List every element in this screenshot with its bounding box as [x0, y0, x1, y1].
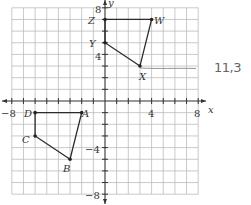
x-tick-label-4: 4	[148, 108, 154, 119]
vertex-y	[103, 41, 107, 45]
vertex-d	[33, 111, 37, 115]
handwritten-line	[140, 68, 196, 69]
vertex-label-c: C	[22, 134, 30, 145]
vertex-label-a: A	[81, 108, 89, 119]
vertex-label-b: B	[62, 163, 70, 174]
handwritten-note: 11,3	[214, 60, 241, 75]
vertex-x	[138, 64, 142, 68]
x-axis-right-arrow-icon	[201, 99, 206, 103]
y-axis-up-arrow-icon	[103, 0, 107, 5]
vertex-label-z: Z	[87, 15, 96, 26]
x-tick-label-neg8: −8	[1, 108, 16, 119]
vertex-c	[33, 134, 37, 138]
y-tick-label-neg8: −8	[85, 190, 100, 201]
y-axis-down-arrow-icon	[103, 199, 107, 204]
vertex-label-w: W	[154, 15, 165, 26]
x-tick-label-8: 8	[194, 108, 200, 119]
y-tick-label-4: 4	[95, 51, 101, 62]
x-axis-label: x	[208, 104, 214, 115]
y-tick-label-neg4: −4	[85, 144, 100, 155]
vertex-w	[150, 18, 154, 22]
vertex-label-y: Y	[89, 38, 97, 49]
y-tick-label-8: 8	[95, 4, 101, 15]
coordinate-plane: x y −8 4 8 8 4 −4 −8 11,3 Z W Y X D A C …	[0, 0, 251, 205]
vertex-label-x: X	[138, 71, 147, 82]
vertex-label-d: D	[23, 108, 32, 119]
x-axis-left-arrow-icon	[2, 99, 7, 103]
vertex-b	[68, 157, 72, 161]
vertex-z	[103, 18, 107, 22]
y-axis-label: y	[107, 0, 114, 8]
